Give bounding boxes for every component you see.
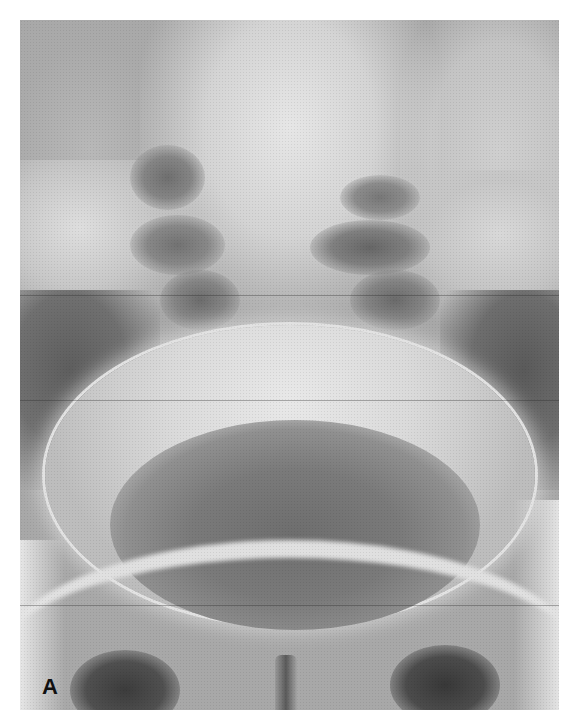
- panel-label: A: [42, 676, 58, 698]
- xray-image: [20, 20, 559, 710]
- halftone-texture: [20, 20, 559, 710]
